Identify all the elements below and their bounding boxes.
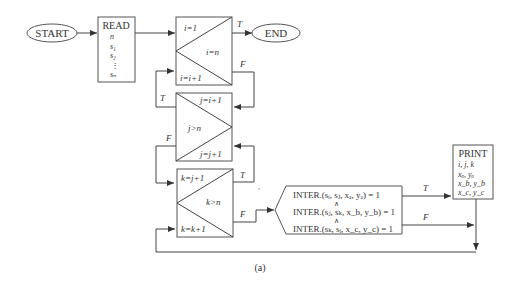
print-item: x_b, y_b <box>457 179 485 188</box>
arrow-loop-j-false <box>156 146 176 183</box>
loop-i-cond: i=n <box>206 47 220 57</box>
read-item: s₂ <box>110 51 116 60</box>
figure-caption: (a) <box>254 262 265 274</box>
arrow-loop-i-false <box>232 72 254 107</box>
loop-i-box: i=1 i=n i=i+1 <box>176 17 232 85</box>
loop-j-incr: j=j+1 <box>199 149 222 159</box>
decision-false-label: F <box>422 212 429 222</box>
loop-k-false-label: F <box>239 209 246 219</box>
print-item: i, j, k <box>458 160 474 169</box>
loop-j-true-label: T <box>160 93 166 103</box>
decision-line-3: INTER.(sₖ, sᵢ, x_c, y_c) = 1 <box>293 224 393 234</box>
print-item: x_c, y_c <box>457 188 485 197</box>
loop-j-cond: j>n <box>187 123 202 133</box>
loop-k-true-label: T <box>240 170 246 180</box>
read-box: READ n s₁ s₂ ⋮ sₙ <box>98 17 135 82</box>
read-title: READ <box>102 20 129 31</box>
loop-i-incr: i=i+1 <box>180 73 202 83</box>
loop-j-box: j=i+1 j>n j=j+1 <box>176 93 232 161</box>
decision-line-1: INTER.(sᵢ, sⱼ, xₐ, yₐ) = 1 <box>293 190 380 200</box>
read-item: n <box>110 32 114 41</box>
loop-i-false-label: F <box>239 59 246 69</box>
start-terminal: START <box>27 24 77 42</box>
end-label: END <box>265 27 288 39</box>
loop-j-init: j=i+1 <box>199 95 222 105</box>
loop-j-false-label: F <box>165 133 172 143</box>
loop-k-cond: k>n <box>206 197 221 207</box>
decision-box: INTER.(sᵢ, sⱼ, xₐ, yₐ) = 1 ∧ INTER.(sⱼ, … <box>275 186 402 234</box>
loop-k-box: k=j+1 k>n k=k+1 <box>177 169 233 237</box>
flowchart: START READ n s₁ s₂ ⋮ sₙ i=1 i=n i=i+1 T … <box>0 0 526 282</box>
read-item: s₁ <box>110 42 116 51</box>
read-item: ⋮ <box>111 61 119 70</box>
decision-line-2: INTER.(sⱼ, sₖ, x_b, y_b) = 1 <box>293 207 395 217</box>
loop-k-init: k=j+1 <box>181 173 204 183</box>
print-item: xₐ, yₐ <box>457 170 474 179</box>
loop-k-incr: k=k+1 <box>181 224 206 234</box>
stray-dot <box>258 188 260 190</box>
arrow-loop-j-true <box>156 71 176 107</box>
loop-i-init: i=1 <box>184 23 197 33</box>
start-label: START <box>35 27 69 39</box>
print-title: PRINT <box>459 148 488 159</box>
print-box: PRINT i, j, k xₐ, yₐ x_b, y_b x_c, y_c <box>453 145 493 199</box>
end-terminal: END <box>252 24 300 42</box>
read-item: sₙ <box>110 70 116 79</box>
loop-i-true-label: T <box>237 19 243 29</box>
decision-true-label: T <box>423 183 429 193</box>
